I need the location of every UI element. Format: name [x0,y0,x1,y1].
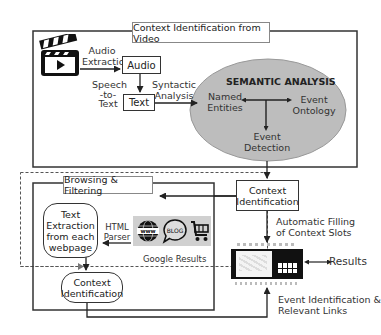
svg-text:www: www [140,228,155,234]
results-screenshot-thumbnail [231,243,303,287]
event-ontology-label: Event Ontology [290,94,338,116]
google-results-label: Google Results [143,254,206,265]
audio-extraction-label: Audio Extraction [82,45,122,67]
semantic-analysis-title: SEMANTIC ANALYSIS [226,76,336,87]
automatic-filling-label: Automatic Filling of Context Slots [276,216,355,238]
svg-text:BLOG: BLOG [167,227,184,234]
shopping-cart-icon [190,220,210,242]
google-results-icons-panel: www BLOG [133,216,211,246]
syntactic-analysis-label: Syntactic Analysis [152,79,196,101]
event-identification-label: Event Identification & Relevant Links [278,294,381,316]
blog-bubble-icon: BLOG [162,218,188,244]
results-label: Results [329,256,367,267]
audio-box: Audio [122,56,161,74]
speech-to-text-label: Speech -to- Text [92,80,124,109]
context-identification-box: Context Identification [236,180,299,211]
html-parser-label: HTML Parser [103,222,131,242]
named-entities-label: Named Entities [204,91,246,113]
event-detection-label: Event Detection [244,131,290,153]
clapperboard-video-icon [39,34,81,78]
top-section-title: Context Identification from Video [132,22,270,43]
browsing-context-identification-box: Context Identification [61,272,123,303]
text-box: Text [123,94,155,111]
www-globe-icon: www [136,219,160,243]
text-extraction-box: Text Extraction from each webpage [43,203,98,258]
bottom-section-title: Browsing & Filtering [63,176,153,194]
